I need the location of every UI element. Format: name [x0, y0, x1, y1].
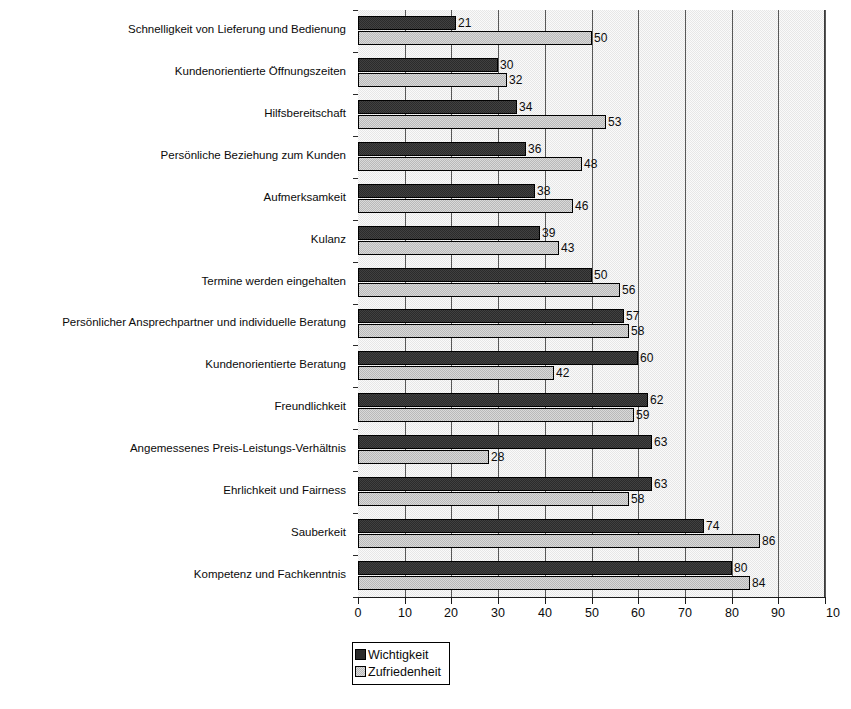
- bar-zufriedenheit: [358, 241, 559, 255]
- xtick-60: [638, 597, 639, 604]
- bar-wichtigkeit: [358, 561, 732, 575]
- bar-value-label: 39: [542, 226, 555, 240]
- bar-value-label: 50: [594, 31, 607, 45]
- bar-group: 5758: [358, 309, 824, 351]
- category-label: Sauberkeit: [0, 526, 352, 538]
- bar-value-label: 30: [500, 58, 513, 72]
- category-label: Aufmerksamkeit: [0, 191, 352, 203]
- legend-label-wichtigkeit: Wichtigkeit: [368, 648, 428, 662]
- bar-value-label: 86: [762, 534, 775, 548]
- bar-group: 2150: [358, 16, 824, 58]
- bar-value-label: 58: [631, 492, 644, 506]
- bar-value-label: 60: [640, 351, 653, 365]
- category-label: Kulanz: [0, 233, 352, 245]
- bar-group: 6328: [358, 435, 824, 477]
- bar-zufriedenheit: [358, 534, 760, 548]
- xtick-label-0: 0: [355, 606, 362, 620]
- bar-value-label: 36: [528, 142, 541, 156]
- bar-wichtigkeit: [358, 309, 624, 323]
- bar-group: 6042: [358, 351, 824, 393]
- xtick-50: [592, 597, 593, 604]
- bar-value-label: 21: [458, 16, 471, 30]
- plot-area: 2150303234533648384639435056575860426259…: [358, 10, 825, 597]
- xtick-label-20: 20: [444, 606, 458, 620]
- category-label: Kompetenz und Fachkenntnis: [0, 568, 352, 580]
- bar-value-label: 38: [537, 184, 550, 198]
- bar-wichtigkeit: [358, 184, 535, 198]
- bar-zufriedenheit: [358, 115, 606, 129]
- bar-zufriedenheit: [358, 408, 634, 422]
- xtick-label-40: 40: [538, 606, 552, 620]
- bar-zufriedenheit: [358, 31, 592, 45]
- bar-group: 5056: [358, 268, 824, 310]
- bar-zufriedenheit: [358, 283, 620, 297]
- xtick-label-30: 30: [491, 606, 505, 620]
- bar-group: 3846: [358, 184, 824, 226]
- xtick-70: [685, 597, 686, 604]
- category-axis-labels: Schnelligkeit von Lieferung und Bedienun…: [0, 10, 352, 597]
- category-label: Termine werden eingehalten: [0, 275, 352, 287]
- xtick-10: [405, 597, 406, 604]
- bar-value-label: 28: [491, 450, 504, 464]
- bar-wichtigkeit: [358, 268, 592, 282]
- legend-item-wichtigkeit[interactable]: Wichtigkeit: [355, 646, 441, 663]
- category-label: Schnelligkeit von Lieferung und Bedienun…: [0, 23, 352, 35]
- bar-group: 6358: [358, 477, 824, 519]
- bar-wichtigkeit: [358, 393, 648, 407]
- gridline-100: [825, 10, 826, 597]
- xtick-label-80: 80: [725, 606, 739, 620]
- bar-value-label: 62: [650, 393, 663, 407]
- bar-value-label: 48: [584, 157, 597, 171]
- bar-value-label: 63: [654, 477, 667, 491]
- legend-item-zufriedenheit[interactable]: Zufriedenheit: [355, 663, 441, 680]
- category-label: Persönlicher Ansprechpartner und individ…: [0, 316, 352, 328]
- bar-wichtigkeit: [358, 351, 638, 365]
- xtick-20: [451, 597, 452, 604]
- bar-zufriedenheit: [358, 324, 629, 338]
- legend-label-zufriedenheit: Zufriedenheit: [368, 665, 441, 679]
- bar-value-label: 43: [561, 241, 574, 255]
- bar-zufriedenheit: [358, 492, 629, 506]
- category-label: Kundenorientierte Öffnungszeiten: [0, 65, 352, 77]
- bar-group: 3943: [358, 226, 824, 268]
- bar-group: 7486: [358, 519, 824, 561]
- bar-value-label: 56: [622, 283, 635, 297]
- bar-zufriedenheit: [358, 450, 489, 464]
- xtick-label-10: 10: [398, 606, 412, 620]
- bar-value-label: 58: [631, 324, 644, 338]
- bar-wichtigkeit: [358, 16, 456, 30]
- bar-value-label: 80: [734, 561, 747, 575]
- bar-group: 3648: [358, 142, 824, 184]
- x-axis-last-tick-clipped: 10: [826, 600, 851, 626]
- legend: Wichtigkeit Zufriedenheit: [352, 642, 450, 685]
- bar-wichtigkeit: [358, 477, 652, 491]
- bar-wichtigkeit: [358, 58, 498, 72]
- bar-chart: Schnelligkeit von Lieferung und Bedienun…: [0, 0, 851, 709]
- bar-value-label: 59: [636, 408, 649, 422]
- category-label: Freundlichkeit: [0, 400, 352, 412]
- bar-value-label: 46: [575, 199, 588, 213]
- bar-group: 6259: [358, 393, 824, 435]
- bar-value-label: 74: [706, 519, 719, 533]
- category-label: Angemessenes Preis-Leistungs-Verhältnis: [0, 442, 352, 454]
- xtick-label-60: 60: [631, 606, 645, 620]
- bar-value-label: 84: [752, 576, 765, 590]
- xtick-40: [545, 597, 546, 604]
- bar-zufriedenheit: [358, 199, 573, 213]
- xtick-0: [358, 597, 359, 604]
- bar-value-label: 32: [509, 73, 522, 87]
- bar-value-label: 42: [556, 366, 569, 380]
- xtick-label-100-clipped: 10: [826, 606, 840, 620]
- bar-value-label: 57: [626, 309, 639, 323]
- bar-zufriedenheit: [358, 366, 554, 380]
- legend-swatch-zufriedenheit: [355, 666, 366, 677]
- xtick-80: [732, 597, 733, 604]
- bar-wichtigkeit: [358, 142, 526, 156]
- bar-group: 3032: [358, 58, 824, 100]
- bar-value-label: 34: [519, 100, 532, 114]
- xtick-30: [498, 597, 499, 604]
- bar-wichtigkeit: [358, 435, 652, 449]
- bar-value-label: 53: [608, 115, 621, 129]
- category-label: Ehrlichkeit und Fairness: [0, 484, 352, 496]
- category-label: Hilfsbereitschaft: [0, 107, 352, 119]
